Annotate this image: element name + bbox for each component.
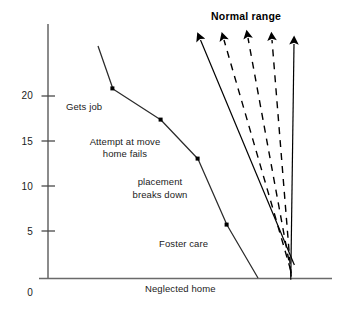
annotation-placement-line1: placement bbox=[113, 176, 207, 188]
annotation-gets-job: Gets job bbox=[66, 101, 102, 113]
normal-range-arrow-1 bbox=[201, 31, 295, 274]
data-point-marker bbox=[196, 157, 200, 161]
data-point-marker bbox=[225, 223, 229, 227]
annotation-attempt-at-move-line1: Attempt at move bbox=[73, 136, 177, 148]
normal-range-arrow-5 bbox=[258, 44, 326, 280]
y-tick-label-10: 10 bbox=[13, 181, 33, 192]
y-tick-label-0: 0 bbox=[13, 287, 33, 298]
data-point-marker bbox=[159, 118, 163, 122]
normal-range-arrow-4 bbox=[258, 40, 305, 277]
chart-title: Normal range bbox=[211, 10, 281, 22]
chart-figure: Normal range 20 15 10 5 0 Gets job Attem… bbox=[0, 0, 348, 317]
y-tick-label-15: 15 bbox=[13, 136, 33, 147]
normal-range-fan bbox=[201, 31, 327, 280]
normal-range-arrow-3 bbox=[248, 37, 291, 275]
annotation-neglected-home: Neglected home bbox=[145, 283, 216, 295]
data-point-marker bbox=[110, 86, 114, 90]
y-tick-label-5: 5 bbox=[13, 226, 33, 237]
annotation-placement-line2: breaks down bbox=[113, 189, 207, 201]
annotation-foster-care: Foster care bbox=[159, 238, 208, 250]
y-tick-label-20: 20 bbox=[13, 90, 33, 101]
annotation-attempt-at-move-line2: home fails bbox=[73, 148, 177, 160]
